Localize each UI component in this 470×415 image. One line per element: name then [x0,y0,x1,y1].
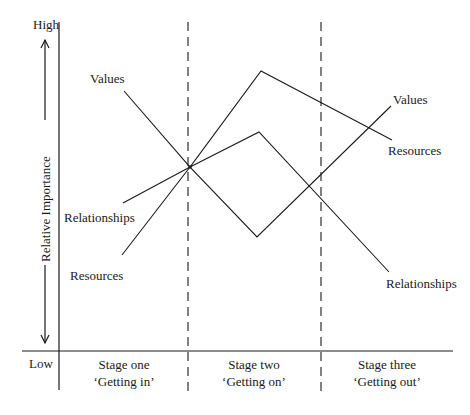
y-axis-low-label: Low [29,356,53,371]
y-axis-high-label: High [33,17,60,32]
resources-line [122,106,391,255]
stage-3-subtitle: ‘Getting out’ [353,374,421,389]
label-resources-left: Resources [70,268,123,283]
crossing-point [188,165,192,169]
label-values-left: Values [90,71,125,86]
label-resources-right: Resources [388,143,441,158]
stage-1-title: Stage one [99,357,150,372]
label-values-right: Values [393,92,428,107]
stage-3-title: Stage three [358,357,416,372]
values-line [124,71,392,167]
stage-2-subtitle: ‘Getting on’ [222,374,286,389]
stage-2-title: Stage two [228,357,280,372]
label-relationships-right: Relationships [386,276,457,291]
label-relationships-left: Relationships [64,210,135,225]
stage-1-subtitle: ‘Getting in’ [93,374,154,389]
stage-importance-diagram: High Low Relative Importance Values Rela… [0,0,470,415]
y-axis-title: Relative Importance [38,156,53,262]
